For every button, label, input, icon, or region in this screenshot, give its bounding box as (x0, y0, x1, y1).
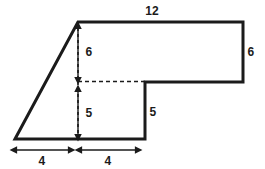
composite-polygon-outline (15, 22, 243, 139)
geometry-figure-canvas: 12 6 6 5 5 4 4 (0, 0, 265, 169)
dimension-label-notch-height: 5 (150, 106, 157, 118)
dimension-label-upper-height: 6 (86, 46, 93, 58)
dimension-label-lower-height: 5 (86, 107, 93, 119)
figure-svg (0, 0, 265, 169)
dimension-label-right-height: 6 (248, 46, 255, 58)
dimension-label-bottom-right-width: 4 (105, 155, 112, 167)
dimension-label-bottom-left-width: 4 (39, 155, 46, 167)
dimension-label-top-width: 12 (145, 5, 159, 17)
